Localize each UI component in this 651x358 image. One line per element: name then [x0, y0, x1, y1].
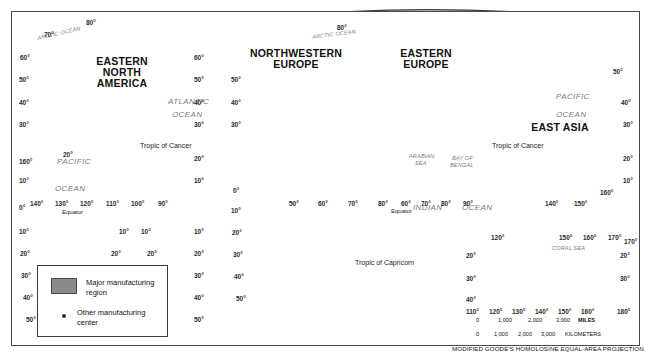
- scale-miles-tick-1000: 1,000: [498, 317, 512, 323]
- legend-swatch-major-region: [51, 278, 77, 294]
- legend-label-other-center: Other manufacturing center: [77, 308, 159, 327]
- map-legend: Major manufacturing region Other manufac…: [37, 265, 168, 337]
- scale-km-tick-1000: 1,000: [494, 331, 508, 337]
- scale-miles-tick-2000: 2,000: [528, 317, 542, 323]
- scale-km-tick-3000: 3,000: [541, 331, 555, 337]
- scale-km-tick-2000: 2,000: [518, 331, 532, 337]
- map-figure: EASTERN NORTH AMERICA NORTHWESTERN EUROP…: [0, 0, 651, 358]
- legend-dot-other-center: [62, 314, 66, 318]
- scale-km-tick-0: 0: [476, 331, 479, 337]
- scale-miles-unit: MILES: [578, 317, 595, 323]
- scale-miles-tick-3000: 3,000: [556, 317, 570, 323]
- projection-note: MODIFIED GOODE'S HOMOLOSINE EQUAL-AREA P…: [452, 345, 644, 352]
- scale-miles-tick-0: 0: [476, 317, 479, 323]
- scale-km-unit: KILOMETERS: [565, 331, 601, 337]
- legend-item-other-center: Other manufacturing center: [51, 308, 159, 327]
- legend-label-major-region: Major manufacturing region: [86, 278, 168, 297]
- legend-item-major-region: Major manufacturing region: [51, 278, 168, 297]
